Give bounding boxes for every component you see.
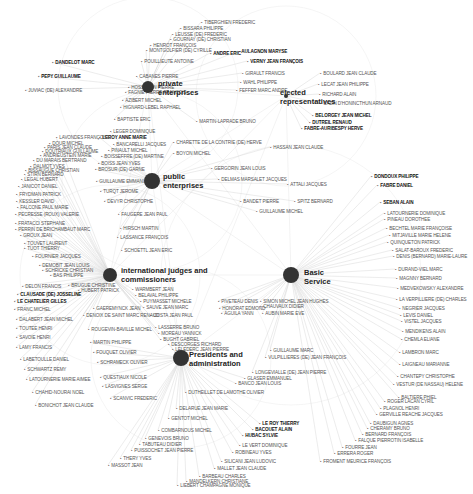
person-node: LE ROY THIERRY [259, 421, 299, 426]
person-node: HIRSCH MARTIN [120, 226, 158, 231]
person-node: DELARUE JEAN MARIE [176, 406, 228, 411]
hub-label-line1: Basic [304, 268, 331, 277]
hub-label-line1: elected [280, 88, 335, 97]
person-node: MALLET JEAN CLAUDE [214, 466, 266, 471]
person-node: TABUTEAU DIDIER [139, 442, 182, 447]
person-node: PERRIN DE BRICHAMBAUT MARC [15, 227, 90, 232]
person-node: MARTIN-LAPRADE BRUNO [196, 119, 256, 124]
person-node: BANCO JEAN LOUIS [235, 381, 281, 386]
hub-label-line1: private [158, 79, 198, 88]
person-node: BOULARD JEAN CLAUDE [320, 71, 377, 76]
person-node: LASSERRE BRUNO [155, 325, 199, 330]
person-node: HUBERT PATRICK [78, 288, 119, 293]
hub-label-private: privateenterprises [158, 79, 198, 97]
person-node: LEGAL HUBERT [21, 177, 58, 182]
person-node: PINAULT MICHEL [108, 148, 148, 153]
person-node: LASSANCE FRANÇOIS [117, 235, 168, 240]
person-node: GIRAULT FRANCIS [242, 71, 285, 76]
person-node: JUVIAC (DE) ALEXANDRE [25, 88, 82, 93]
person-node: LEVIS DANIEL [400, 313, 433, 318]
person-node: HASSAN JEAN CLAUDE [270, 145, 323, 150]
person-node: BOISS JEAN YVES [98, 161, 140, 166]
hub-node-basic [283, 267, 299, 283]
person-node: DELMAS MARSALET JACQUES [218, 177, 287, 182]
hub-label-line2: administration [189, 359, 243, 368]
person-node: PECRESSE (ROUX) VALERIE [15, 212, 79, 217]
person-node: SPITZ BERNARD [294, 199, 333, 204]
person-node: MAGNNY BERNARD [396, 276, 442, 281]
person-node: GUILLAUME MARC [270, 348, 313, 353]
person-node: LASVIGNES SERGE [102, 384, 147, 389]
person-node: BECHTEL MARIE FRANÇOISE [386, 226, 452, 231]
person-node: FOURNIER JACQUES [32, 254, 81, 259]
person-node: LAMBRON MARC [399, 350, 439, 355]
person-node: TIBERGHIEN FREDERIC [201, 20, 255, 25]
person-node: BOISSEFFRE (DE) MARTINE [101, 154, 164, 159]
person-node: VESTUR (DE NASSAU) HELENE [393, 382, 463, 387]
person-node: QUINQUETON PATRICK [387, 240, 440, 245]
person-node: BANCARELLI JACQUES [113, 142, 166, 147]
person-node: WAHL PHILIPPE [240, 80, 277, 85]
person-node: FALQUE PIERROTIN ISABELLE [355, 438, 423, 443]
person-node: FRANC MICHEL [14, 307, 51, 312]
person-node: LAMY FRANCIS [16, 345, 52, 350]
person-node: DONDOUX PHILIPPE [371, 174, 418, 179]
person-node: SAUVE JEAN MARC [143, 305, 188, 310]
person-node: DENIS (BERNARD) MARIE-LAURE [393, 254, 467, 259]
network-diagram: TIBERGHIEN FREDERICBISSARA PHILIPPELEUSS… [0, 0, 473, 494]
hub-label-line1: public [163, 172, 203, 181]
person-node: BANDET PIERRE [240, 199, 279, 204]
person-node: CHARETTE DE LA CONTRIE (DE) HERVE [173, 140, 262, 145]
person-node: FRATACCI STEPHANE [15, 221, 65, 226]
person-node: ERRERA ROGER [334, 451, 373, 456]
person-node: DELON FRANCIS [22, 284, 61, 289]
person-node: BONICHOT JEAN CLAUDE [35, 403, 93, 408]
person-node: GENTOT MICHEL [168, 416, 208, 421]
person-node: SCANVIC FREDERIC [110, 396, 157, 401]
hub-label-presidents: Presidents andadministration [189, 350, 243, 368]
person-node: CHAUVAUX DIDIER [260, 304, 304, 309]
person-node: FALCONE PAUL MARIE [17, 205, 69, 210]
person-node: SCHRAMECK OLIVIER [97, 360, 147, 365]
person-node: BAPTISTE ERIC [114, 117, 150, 122]
person-node: DENOIX DE SAINT MARC RENAUD [83, 313, 159, 318]
person-node: AZIBERT MICHEL [122, 98, 162, 103]
person-node: PUISSOCHET JEAN PIERRE [131, 448, 193, 453]
hub-label-basic: BasicService [304, 268, 331, 286]
person-node: BOYON MICHEL [173, 151, 210, 156]
hub-label-elected: electedrepresentatives [280, 88, 335, 106]
person-node: LE CHATELIER GILLES [14, 299, 66, 304]
person-node: CHAHID-NOURAI NOEL [32, 390, 84, 395]
person-node: QUESTIAUX NICOLE [100, 375, 147, 380]
person-node: PINEAU DOROTHEE [384, 217, 430, 222]
person-node: GROUX JEAN [20, 233, 52, 238]
person-node: DANDELOT MARC [52, 60, 95, 65]
person-node: BAS PHILIPPE [50, 273, 83, 278]
person-node: CHERAMY BRUNO [367, 426, 410, 431]
person-node: AGUILA YANN [221, 311, 253, 316]
person-node: THERY YVES [120, 456, 151, 461]
person-node: GENEVOIS BRUNO [145, 436, 189, 441]
person-node: FROMENT MEURICE FRANÇOIS [320, 459, 391, 464]
person-node: HIGNARD-LEBEL RAPHAEL [120, 105, 181, 110]
person-node: MARTIN PHILIPPE [90, 340, 131, 345]
person-node: ANDRE ERIC [210, 51, 241, 56]
person-node: BERNARD FRANÇOIS [362, 432, 411, 437]
hub-label-intl: international judges andcommissioners [121, 266, 208, 284]
person-node: TURQT JEROME [100, 189, 138, 194]
person-node: BISSARA PHILIPPE [180, 26, 223, 31]
person-node: COMBARNOUS MICHEL [158, 428, 212, 433]
person-node: KESSLER DAVID [16, 199, 54, 204]
person-node: LEGER DOMINIQUE [110, 129, 155, 134]
person-node: DEVYR CHRISTOPHE [104, 199, 153, 204]
person-node: GAEREMYNCK JEAN [93, 306, 141, 311]
person-node: GOURNAY (DE) CHRISTIAN [170, 37, 231, 42]
person-node: ROBINEAU YVES [232, 450, 271, 455]
person-node: ROUGEVIN-BAVILLE MICHEL [88, 327, 152, 332]
person-node: SCHOETTL JEAN ERIC [121, 248, 172, 253]
hub-label-line2: enterprises [163, 181, 203, 190]
person-node: LE VERT DOMINIQUE [239, 443, 287, 448]
hub-label-line2: commissioners [121, 275, 208, 284]
person-node: ROGER LACAN CYRIL [384, 399, 434, 404]
person-node: MASSOT JEAN [108, 463, 143, 468]
